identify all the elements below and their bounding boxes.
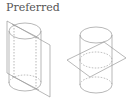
diagram-canvas xyxy=(0,0,138,100)
cylinder-left xyxy=(9,23,41,91)
vertical-plane xyxy=(7,21,50,97)
horizontal-plane xyxy=(67,42,126,77)
cylinder-right xyxy=(80,27,112,93)
